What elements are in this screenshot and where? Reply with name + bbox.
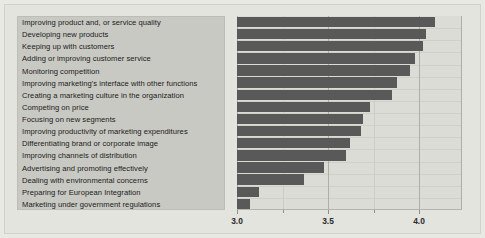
plot-area bbox=[237, 16, 462, 210]
category-label-panel: Improving product and, or service qualit… bbox=[17, 16, 225, 210]
bar-row bbox=[237, 162, 462, 174]
category-label: Improving channels of distribution bbox=[18, 150, 224, 162]
bar bbox=[237, 138, 350, 148]
bar bbox=[237, 77, 397, 87]
chart-plate: Improving product and, or service qualit… bbox=[4, 4, 481, 234]
bar bbox=[237, 162, 324, 172]
bar-row bbox=[237, 77, 462, 89]
bar-row bbox=[237, 40, 462, 52]
bar bbox=[237, 41, 423, 51]
category-label: Developing new products bbox=[18, 29, 224, 41]
bar bbox=[237, 114, 363, 124]
x-axis: 3.03.54.0 bbox=[237, 210, 469, 232]
bar-row bbox=[237, 65, 462, 77]
category-label: Improving product and, or service qualit… bbox=[18, 17, 224, 29]
bar bbox=[237, 53, 415, 63]
bar bbox=[237, 29, 426, 39]
category-label: Preparing for European Integration bbox=[18, 187, 224, 199]
bar bbox=[237, 199, 250, 209]
bar bbox=[237, 17, 435, 27]
x-tick-label: 3.0 bbox=[231, 216, 243, 226]
category-label: Creating a marketing culture in the orga… bbox=[18, 90, 224, 102]
chart-screenshot: Improving product and, or service qualit… bbox=[0, 0, 485, 238]
bar-row bbox=[237, 89, 462, 101]
x-tick-label: 4.0 bbox=[413, 216, 425, 226]
category-label: Focusing on new segments bbox=[18, 114, 224, 126]
category-label: Adding or improving customer service bbox=[18, 53, 224, 65]
bar bbox=[237, 126, 361, 136]
bar bbox=[237, 102, 370, 112]
x-tick-mark bbox=[237, 210, 238, 214]
category-label: Keeping up with customers bbox=[18, 41, 224, 53]
bar bbox=[237, 90, 392, 100]
x-tick-mark bbox=[328, 210, 329, 214]
category-label: Advertising and promoting effectively bbox=[18, 163, 224, 175]
bar bbox=[237, 150, 346, 160]
bar-row bbox=[237, 174, 462, 186]
bar-row bbox=[237, 16, 462, 28]
x-tick-label: 3.5 bbox=[322, 216, 334, 226]
bar-row bbox=[237, 186, 462, 198]
x-tick-mark-minor bbox=[283, 210, 284, 213]
category-label: Competing on price bbox=[18, 102, 224, 114]
bar-row bbox=[237, 101, 462, 113]
bar-row bbox=[237, 137, 462, 149]
bar bbox=[237, 174, 304, 184]
category-label: Monitoring competition bbox=[18, 66, 224, 78]
category-label: Improving marketing's interface with oth… bbox=[18, 78, 224, 90]
bar-row bbox=[237, 52, 462, 64]
category-label: Improving productivity of marketing expe… bbox=[18, 126, 224, 138]
bar-row bbox=[237, 113, 462, 125]
x-tick-mark-minor bbox=[374, 210, 375, 213]
bar-row bbox=[237, 149, 462, 161]
category-label: Differentiating brand or corporate image bbox=[18, 138, 224, 150]
bar bbox=[237, 65, 410, 75]
category-label: Marketing under government regulations bbox=[18, 199, 224, 211]
x-tick-mark bbox=[419, 210, 420, 214]
bar bbox=[237, 187, 259, 197]
bar-row bbox=[237, 28, 462, 40]
bar-row bbox=[237, 125, 462, 137]
category-label: Dealing with environmental concerns bbox=[18, 175, 224, 187]
